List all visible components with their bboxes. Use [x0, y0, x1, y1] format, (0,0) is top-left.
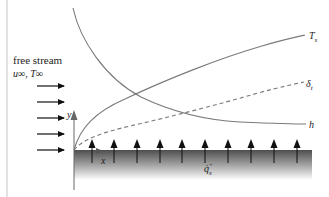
curve-thermal-boundary-layer [74, 82, 304, 150]
free-stream-title: free stream [13, 54, 63, 66]
curve-surface-temperature [74, 35, 305, 150]
curve-label-surface-temperature: Ts [309, 30, 318, 44]
curve-heat-transfer-coefficient [73, 8, 306, 124]
y-axis-arrowhead-icon [71, 110, 78, 120]
heated-plate [74, 150, 312, 180]
free-stream-arrows [37, 83, 65, 153]
free-stream-conditions: u∞, T∞ [13, 68, 43, 79]
x-axis-label: x [100, 155, 106, 166]
heat-flux-subscript: s [209, 169, 212, 177]
y-axis-label: y [66, 109, 72, 120]
curve-label-thermal-boundary-layer: δt [306, 78, 314, 92]
curve-label-heat-transfer-coefficient: h [309, 119, 314, 130]
boundary-layer-diagram: y x free stream u∞, T∞ q̇″s [0, 0, 329, 197]
